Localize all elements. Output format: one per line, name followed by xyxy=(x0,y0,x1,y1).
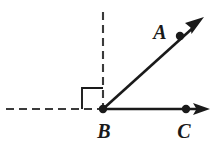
right-angle-square-icon xyxy=(82,88,103,109)
point-dot-a xyxy=(176,32,184,40)
point-label-c: C xyxy=(177,120,191,142)
geometry-diagram: A B C xyxy=(0,0,219,150)
point-label-b: B xyxy=(96,120,110,142)
point-dot-c xyxy=(182,105,190,113)
point-label-a: A xyxy=(151,21,166,43)
geometry-canvas: A B C xyxy=(0,0,219,150)
vertex-dot-b xyxy=(99,105,107,113)
